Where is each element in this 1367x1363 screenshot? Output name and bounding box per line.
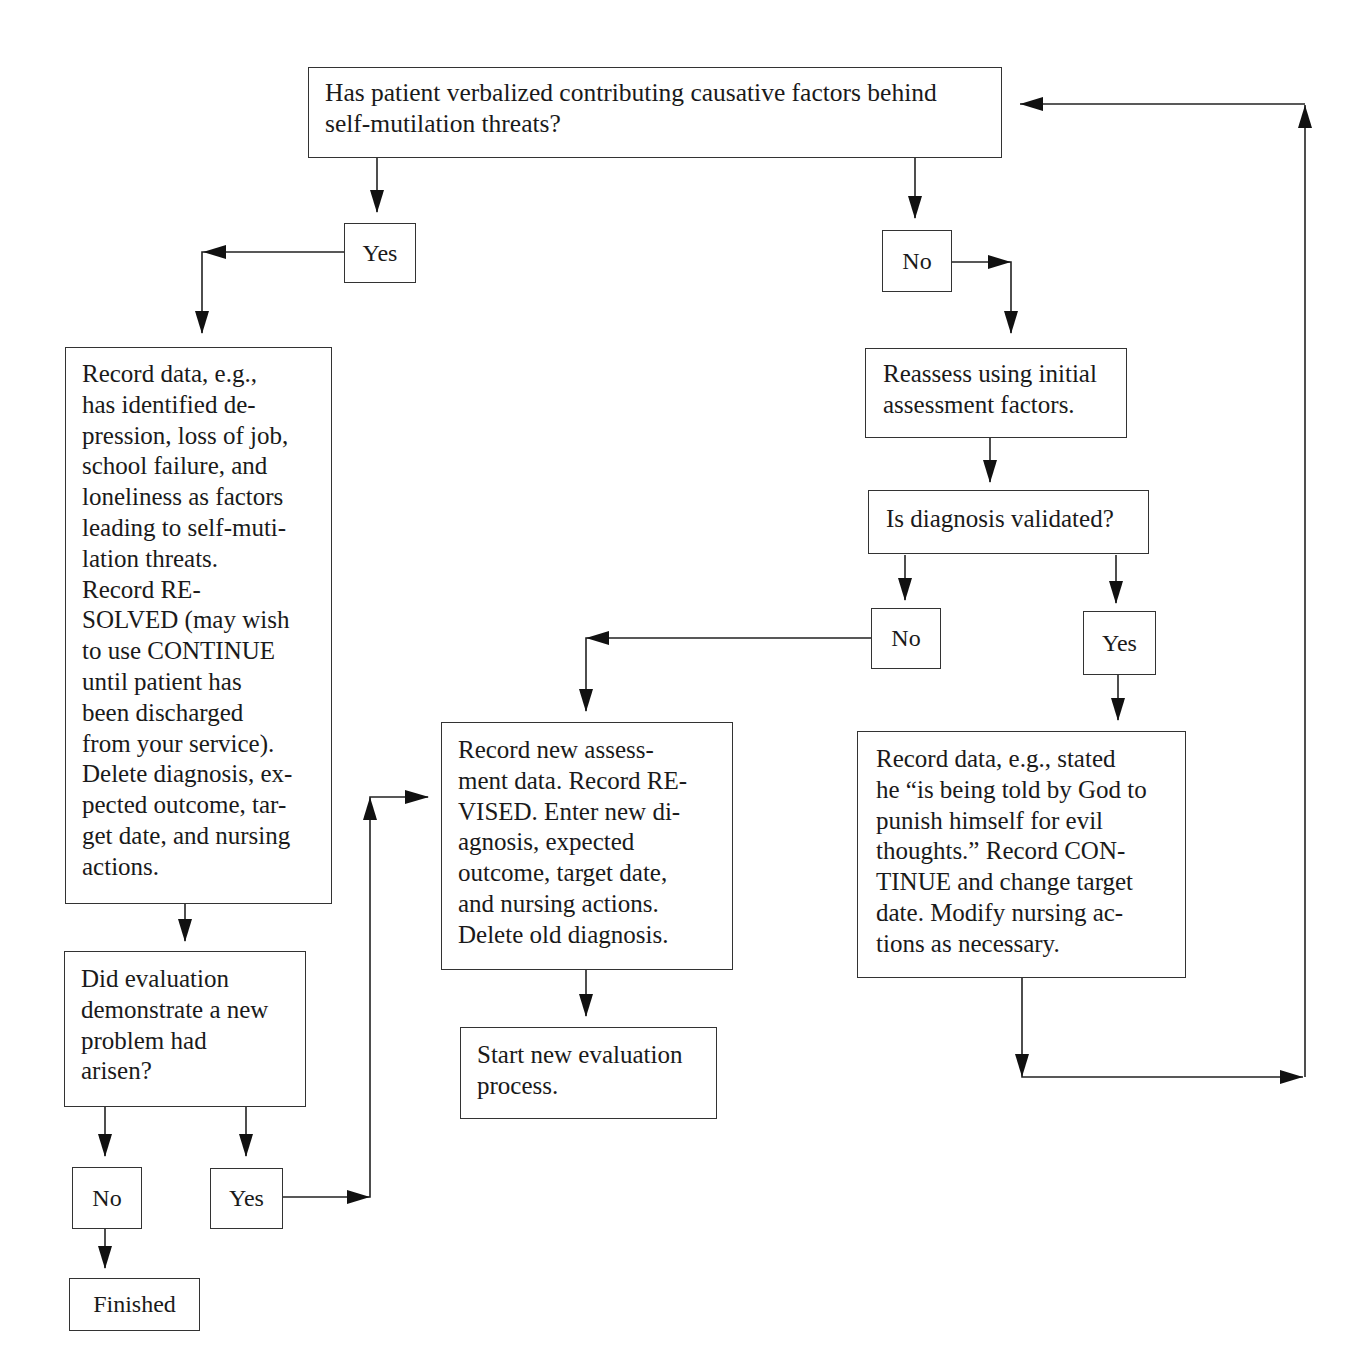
flowchart-canvas: Has patient verbalized contributing caus… — [0, 0, 1367, 1363]
record-continue-box: Record data, e.g., stated he “is being t… — [857, 731, 1186, 978]
start-new-evaluation-box: Start new evaluation process. — [460, 1027, 717, 1119]
yes-label-1: Yes — [344, 223, 416, 283]
question-verbalized-box: Has patient verbalized contributing caus… — [308, 67, 1002, 158]
reassess-box: Reassess using initial assessment factor… — [865, 348, 1127, 438]
no-label-3: No — [72, 1167, 142, 1229]
record-revised-box: Record new assess- ment data. Record RE-… — [441, 722, 733, 970]
yes-label-2: Yes — [1083, 611, 1156, 675]
no-label-1: No — [882, 230, 952, 292]
no-label-2: No — [871, 608, 941, 669]
yes-label-3: Yes — [210, 1168, 283, 1229]
question-validated-box: Is diagnosis validated? — [868, 490, 1149, 554]
question-new-problem-box: Did evaluation demonstrate a new problem… — [64, 951, 306, 1107]
finished-box: Finished — [69, 1278, 200, 1331]
record-resolved-box: Record data, e.g., has identified de- pr… — [65, 347, 332, 904]
